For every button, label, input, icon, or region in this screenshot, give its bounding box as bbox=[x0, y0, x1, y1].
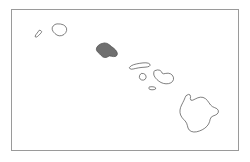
island-lanai[interactable]: Lanai bbox=[139, 74, 146, 81]
hawaii-map-figure: Niihau Kauai Oahu Molokai Lanai Maui Kah… bbox=[0, 0, 250, 162]
hawaii-islands-svg: Niihau Kauai Oahu Molokai Lanai Maui Kah… bbox=[0, 0, 250, 162]
island-kauai[interactable]: Kauai bbox=[52, 24, 66, 36]
island-hawaii-big[interactable]: Hawaii (Big Island) bbox=[180, 94, 218, 132]
island-oahu[interactable]: Oahu bbox=[96, 43, 117, 58]
island-maui[interactable]: Maui bbox=[154, 70, 174, 84]
island-kahoolawe[interactable]: Kahoolawe bbox=[149, 87, 156, 90]
island-niihau[interactable]: Niihau bbox=[35, 30, 41, 37]
islands-group: Niihau Kauai Oahu Molokai Lanai Maui Kah… bbox=[35, 24, 218, 132]
island-molokai[interactable]: Molokai bbox=[130, 63, 151, 69]
